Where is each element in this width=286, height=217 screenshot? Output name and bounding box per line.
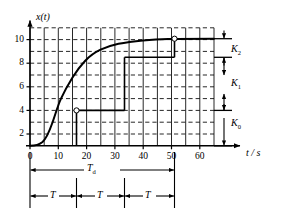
marker-upper — [172, 36, 177, 41]
t2-label: T — [97, 190, 103, 200]
k2-subscript: 2 — [238, 49, 241, 56]
t1-label: T — [50, 190, 56, 200]
y-axis-label: x(t) — [36, 12, 50, 22]
x-tick-label-40: 40 — [135, 152, 151, 162]
x-tick-label-60: 60 — [192, 152, 208, 162]
curve-markers — [74, 36, 177, 113]
k0-subscript: 0 — [238, 123, 241, 130]
t3-label: T — [145, 190, 151, 200]
k0-label: K0 — [231, 118, 241, 131]
x-tick-label-30: 30 — [107, 152, 123, 162]
k1-label: K1 — [231, 78, 241, 91]
y-tick-label-2: 2 — [8, 129, 24, 139]
y-tick-label-10: 10 — [8, 35, 24, 45]
k0-symbol: K — [231, 117, 238, 128]
k1-subscript: 1 — [238, 83, 241, 90]
marker-lower — [74, 108, 79, 113]
k1-symbol: K — [231, 77, 238, 88]
td-label: Td — [87, 163, 96, 176]
step-response-chart — [0, 0, 286, 217]
x-axis-label: t / s — [246, 148, 260, 158]
td-subscript: d — [93, 168, 96, 175]
y-tick-label-4: 4 — [8, 106, 24, 116]
x-tick-label-10: 10 — [50, 152, 66, 162]
y-tick-label-8: 8 — [8, 58, 24, 68]
vertical-gridlines — [30, 28, 214, 146]
response-curve — [30, 39, 214, 146]
x-tick-label-50: 50 — [164, 152, 180, 162]
k-brackets — [214, 31, 232, 146]
x-tick-label-0: 0 — [22, 152, 38, 162]
x-tick-label-20: 20 — [79, 152, 95, 162]
k2-label: K2 — [231, 44, 241, 57]
y-tick-label-6: 6 — [8, 82, 24, 92]
k2-symbol: K — [231, 43, 238, 54]
